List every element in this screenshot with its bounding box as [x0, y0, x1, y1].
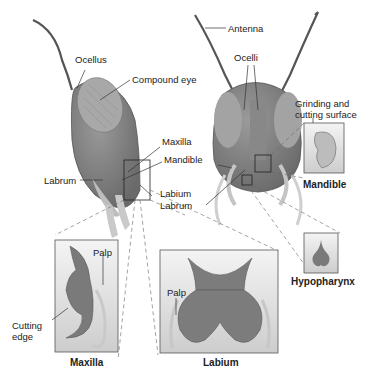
- label-antenna: Antenna: [228, 23, 263, 34]
- label-maxilla: Maxilla: [162, 136, 192, 147]
- title-labium-inset: Labium: [203, 357, 239, 368]
- label-cutting-2: edge: [12, 331, 33, 342]
- label-ocelli: Ocelli: [234, 52, 258, 63]
- label-cutting-1: Cutting: [12, 320, 42, 331]
- label-labium: Labium: [160, 188, 191, 199]
- title-mandible-inset: Mandible: [303, 179, 346, 190]
- label-ocellus: Ocellus: [75, 54, 107, 65]
- label-labrum-front: Labrum: [160, 200, 192, 211]
- compound-eye-left: [214, 92, 242, 148]
- label-grinding-1: Grinding and: [295, 98, 349, 109]
- side-view-head: [33, 20, 150, 238]
- antenna-side: [33, 20, 72, 90]
- hypopharynx-inset: [304, 233, 338, 273]
- mandible-inset: [304, 123, 344, 173]
- label-grinding-2: cutting surface: [295, 109, 357, 120]
- labium-inset: [160, 250, 278, 353]
- label-mandible: Mandible: [164, 154, 203, 165]
- label-maxilla-palp: Palp: [93, 247, 112, 258]
- title-maxilla-inset: Maxilla: [70, 357, 103, 368]
- label-labium-palp: Palp: [167, 287, 186, 298]
- label-labrum-side: Labrum: [44, 175, 76, 186]
- title-hypopharynx-inset: Hypopharynx: [291, 276, 355, 287]
- label-compound-eye: Compound eye: [132, 74, 196, 85]
